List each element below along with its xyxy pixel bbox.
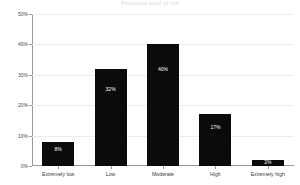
bar[interactable]: 17% xyxy=(199,114,231,166)
clipped-chart-title: Perceived level of risk xyxy=(0,0,300,6)
bar[interactable]: 40% xyxy=(147,44,179,166)
bar[interactable]: 32% xyxy=(95,69,127,166)
y-tick-label: 10% xyxy=(18,133,28,138)
y-tick-label: 20% xyxy=(18,103,28,108)
bar-chart-figure: Perceived level of risk Percent of respo… xyxy=(0,0,300,185)
bar-value-label: 17% xyxy=(199,124,231,130)
x-tick-label: Low xyxy=(106,171,116,177)
bar-value-label: 40% xyxy=(147,66,179,72)
bar-value-label: 8% xyxy=(42,146,74,152)
x-tick-label: High xyxy=(210,171,221,177)
x-tick-mark xyxy=(111,166,112,169)
y-tick-label: 30% xyxy=(18,72,28,77)
y-tick-label: 40% xyxy=(18,42,28,47)
bar-value-label: 32% xyxy=(95,86,127,92)
x-tick-label: Extremely low xyxy=(42,171,74,177)
plot-area: 0%10%20%30%40%50% 8%32%40%17%2% Extremel… xyxy=(32,14,294,166)
y-tick-mark xyxy=(29,136,32,137)
bar[interactable]: 8% xyxy=(42,142,74,166)
x-tick-label: Extremely high xyxy=(251,171,285,177)
y-tick-mark xyxy=(29,105,32,106)
y-tick-label: 50% xyxy=(18,12,28,17)
y-tick-mark xyxy=(29,166,32,167)
x-tick-mark xyxy=(215,166,216,169)
bar-value-label: 2% xyxy=(252,159,284,165)
x-tick-mark xyxy=(268,166,269,169)
y-tick-label: 0% xyxy=(21,164,28,169)
y-tick-mark xyxy=(29,75,32,76)
y-tick-mark xyxy=(29,44,32,45)
y-tick-mark xyxy=(29,14,32,15)
gridline xyxy=(32,14,294,15)
x-tick-mark xyxy=(163,166,164,169)
x-tick-mark xyxy=(58,166,59,169)
x-tick-label: Moderate xyxy=(152,171,174,177)
